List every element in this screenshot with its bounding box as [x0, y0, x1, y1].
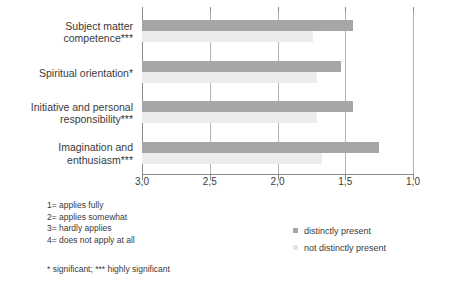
bar-group — [142, 134, 413, 175]
x-tick-label: 1,0 — [406, 176, 420, 187]
scale-key-line: 3= hardly applies — [47, 223, 135, 235]
legend-label: distinctly present — [304, 226, 371, 236]
category-label-line: Subject matter — [0, 20, 133, 33]
category-label-line: competence*** — [0, 32, 133, 45]
gridline — [413, 12, 414, 174]
plot-area: Subject mattercompetence***Spiritual ori… — [0, 0, 452, 195]
axis-tick — [413, 7, 414, 12]
bar — [142, 20, 353, 31]
bar — [142, 31, 313, 42]
bar — [142, 72, 317, 83]
legend-swatch-icon — [293, 228, 298, 233]
legend-item[interactable]: not distinctly present — [293, 239, 386, 256]
significance-note: * significant; *** highly significant — [47, 264, 170, 274]
scale-key: 1= applies fully2= applies somewhat3= ha… — [47, 200, 135, 246]
category-label-line: enthusiasm*** — [0, 154, 133, 167]
category-label-line: responsibility*** — [0, 113, 133, 126]
x-tick-label: 3,0 — [135, 176, 149, 187]
bar-group — [142, 53, 413, 94]
chart-legend: distinctly presentnot distinctly present — [293, 222, 386, 256]
bar — [142, 142, 379, 153]
bar — [142, 101, 353, 112]
scale-key-line: 4= does not apply at all — [47, 235, 135, 247]
scale-key-line: 1= applies fully — [47, 200, 135, 212]
legend-swatch-icon — [293, 245, 298, 250]
plot-canvas — [142, 12, 413, 174]
legend-item[interactable]: distinctly present — [293, 222, 386, 239]
category-label: Initiative and personalresponsibility*** — [0, 101, 133, 126]
x-tick-label: 2,0 — [271, 176, 285, 187]
bar-group — [142, 12, 413, 53]
x-tick-label: 1,5 — [338, 176, 352, 187]
x-axis-tick-labels: 3,02,52,01,51,0 — [142, 176, 422, 192]
x-tick-label: 2,5 — [203, 176, 217, 187]
bar — [142, 112, 317, 123]
category-axis-labels: Subject mattercompetence***Spiritual ori… — [0, 12, 137, 174]
category-label-line: Imagination and — [0, 141, 133, 154]
category-label: Spiritual orientation* — [0, 67, 133, 80]
category-label: Imagination andenthusiasm*** — [0, 141, 133, 166]
category-label-line: Spiritual orientation* — [0, 67, 133, 80]
bar-chart: Subject mattercompetence***Spiritual ori… — [0, 0, 452, 291]
category-label: Subject mattercompetence*** — [0, 20, 133, 45]
category-label-line: Initiative and personal — [0, 101, 133, 114]
legend-label: not distinctly present — [304, 243, 386, 253]
bar — [142, 153, 322, 164]
bar — [142, 61, 341, 72]
bar-group — [142, 93, 413, 134]
scale-key-line: 2= applies somewhat — [47, 212, 135, 224]
